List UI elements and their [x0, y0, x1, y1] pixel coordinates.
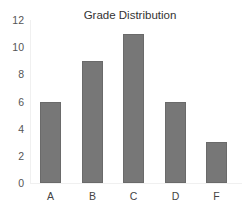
x-tick-label: D — [165, 190, 186, 202]
chart-title: Grade Distribution — [0, 9, 242, 21]
bar-d — [165, 102, 186, 184]
bar-b — [82, 61, 103, 183]
x-tick-label: C — [123, 190, 144, 202]
y-tick-label: 10 — [0, 41, 24, 53]
bar-c — [123, 34, 144, 183]
bar-f — [206, 142, 227, 183]
y-tick-label: 2 — [0, 150, 24, 162]
x-tick-label: F — [206, 190, 227, 202]
y-tick-label: 0 — [0, 177, 24, 189]
y-tick-label: 6 — [0, 96, 24, 108]
x-tick-label: A — [40, 190, 61, 202]
bar-a — [40, 102, 61, 184]
y-tick-label: 12 — [0, 14, 24, 26]
y-tick-label: 8 — [0, 68, 24, 80]
y-tick-label: 4 — [0, 123, 24, 135]
x-axis-line — [30, 183, 242, 184]
x-tick-label: B — [82, 190, 103, 202]
y-axis-line — [30, 20, 31, 184]
